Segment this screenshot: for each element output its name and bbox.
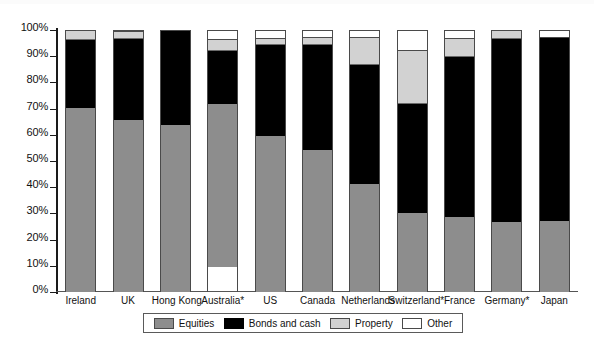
legend-item-label: Equities <box>179 318 215 329</box>
x-axis-label: Canada <box>294 295 341 306</box>
x-axis-label: Switzerland* <box>389 295 436 306</box>
x-axis-label: US <box>246 295 293 306</box>
x-axis-label: Japan <box>531 295 578 306</box>
x-axis-label: Ireland <box>57 295 104 306</box>
chart-figure: 100%90%80%70%60%50%40%30%20%10%0% Irelan… <box>0 0 594 357</box>
y-axis-tick-label: 10% <box>27 258 48 269</box>
x-axis-label: Australia* <box>199 295 246 306</box>
bar-canada <box>302 30 333 292</box>
swatch-lightgray-icon <box>330 318 350 329</box>
y-axis-tick-mark <box>50 240 57 241</box>
bar-hong-kong <box>160 30 191 292</box>
y-axis-tick-mark <box>50 30 57 31</box>
bar-segment-equities <box>398 213 427 292</box>
bar-segment-equities <box>208 104 237 266</box>
bar-segment-property <box>350 38 379 66</box>
bar-segment-bonds <box>256 45 285 135</box>
y-axis-tick-label: 50% <box>27 153 48 164</box>
y-axis-tick: 40% <box>0 187 57 188</box>
y-axis-tick-label: 60% <box>27 127 48 138</box>
bar-segment-other <box>208 31 237 40</box>
y-axis-tick-label: 70% <box>27 101 48 112</box>
swatch-black-icon <box>224 318 244 329</box>
y-axis-tick-label: 40% <box>27 179 48 190</box>
legend-item-other: Other <box>402 318 452 329</box>
y-axis-tick: 80% <box>0 82 57 83</box>
bar-segment-bonds <box>350 65 379 184</box>
legend-item-equities: Equities <box>154 318 215 329</box>
y-axis-tick-mark <box>50 135 57 136</box>
y-axis-tick: 100% <box>0 30 57 31</box>
bar-switzerland <box>397 30 428 292</box>
y-axis-tick: 60% <box>0 135 57 136</box>
y-axis-tick-label: 20% <box>27 232 48 243</box>
y-axis-tick-mark <box>50 161 57 162</box>
bar-segment-bonds <box>540 38 569 221</box>
y-axis-tick-label: 90% <box>27 48 48 59</box>
bar-segment-bonds <box>303 45 332 150</box>
swatch-gray-icon <box>154 318 174 329</box>
bar-segment-property <box>398 51 427 105</box>
y-axis-tick-mark <box>50 266 57 267</box>
y-axis-tick-mark <box>50 109 57 110</box>
bar-segment-bonds <box>492 39 521 222</box>
legend-item-label: Property <box>355 318 393 329</box>
bar-segment-other <box>445 31 474 39</box>
bar-segment-other <box>256 31 285 39</box>
bar-segment-equities <box>492 222 521 292</box>
y-axis-tick-mark <box>50 56 57 57</box>
y-axis-tick-label: 100% <box>21 22 48 33</box>
y-axis-tick: 0% <box>0 292 57 293</box>
x-axis-label: Netherlands <box>341 295 388 306</box>
bar-segment-equities <box>540 221 569 292</box>
bar-segment-property <box>208 40 237 50</box>
plot-area <box>57 30 578 292</box>
bar-segment-equities <box>256 136 285 292</box>
bar-segment-bonds <box>114 39 143 120</box>
bar-segment-equities <box>350 184 379 292</box>
bar-segment-property <box>303 38 332 46</box>
y-axis-tick: 90% <box>0 56 57 57</box>
bar-segment-equities <box>114 120 143 292</box>
y-axis-tick: 70% <box>0 109 57 110</box>
bar-us <box>255 30 286 292</box>
bar-segment-bonds <box>161 31 190 125</box>
y-axis-tick: 20% <box>0 240 57 241</box>
y-axis-tick-mark <box>50 213 57 214</box>
bar-segment-equities <box>161 125 190 292</box>
bar-uk <box>113 30 144 292</box>
swatch-white-icon <box>402 318 422 329</box>
y-axis-tick-label: 30% <box>27 205 48 216</box>
y-axis-tick-label: 0% <box>33 284 49 295</box>
bar-segment-equities <box>303 150 332 292</box>
y-axis-tick: 50% <box>0 161 57 162</box>
scan-top-edge <box>0 0 594 4</box>
x-axis-label: UK <box>104 295 151 306</box>
x-axis-label: Hong Kong <box>152 295 199 306</box>
bar-netherlands <box>349 30 380 292</box>
bar-segment-bonds <box>208 51 237 105</box>
bar-segment-property <box>492 31 521 39</box>
x-axis-label: France <box>436 295 483 306</box>
legend-item-property: Property <box>330 318 393 329</box>
y-axis-tick: 30% <box>0 213 57 214</box>
y-axis-tick-mark <box>50 187 57 188</box>
bar-france <box>444 30 475 292</box>
legend-item-label: Other <box>427 318 452 329</box>
bar-segment-property <box>66 31 95 40</box>
chart-legend: EquitiesBonds and cashPropertyOther <box>143 313 463 333</box>
y-axis-tick-mark <box>50 82 57 83</box>
bar-segment-other <box>398 31 427 51</box>
bar-segment-bonds <box>66 40 95 108</box>
y-axis-tick-label: 80% <box>27 74 48 85</box>
bar-ireland <box>65 30 96 292</box>
legend-item-bonds-and-cash: Bonds and cash <box>224 318 321 329</box>
bar-segment-property <box>445 39 474 57</box>
x-axis-label: Germany* <box>483 295 530 306</box>
y-axis-tick-mark <box>50 292 57 293</box>
bar-segment-bonds <box>398 104 427 213</box>
legend-item-label: Bonds and cash <box>249 318 321 329</box>
bar-segment-bonds <box>445 57 474 217</box>
bar-japan <box>539 30 570 292</box>
bar-segment-equities <box>445 217 474 292</box>
